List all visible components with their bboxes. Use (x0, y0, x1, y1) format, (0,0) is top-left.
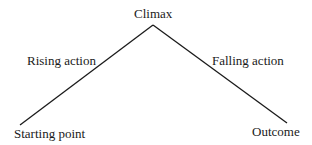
rising-action-line (20, 25, 153, 125)
falling-action-line (153, 25, 287, 123)
rising-action-label: Rising action (27, 54, 96, 67)
falling-action-label: Falling action (212, 54, 284, 67)
outcome-label: Outcome (252, 125, 300, 138)
starting-point-label: Starting point (14, 127, 85, 140)
climax-label: Climax (134, 7, 172, 20)
plot-diagram: Climax Rising action Falling action Star… (0, 0, 312, 145)
